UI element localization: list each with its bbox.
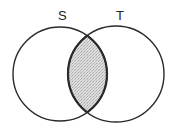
venn-diagram: S T (0, 0, 174, 129)
set-t-label: T (116, 8, 124, 23)
set-s-label: S (58, 8, 67, 23)
